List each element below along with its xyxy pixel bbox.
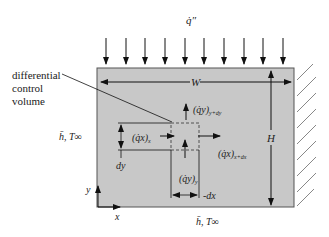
- dx-label: -dx: [203, 190, 216, 201]
- dy-label: dy: [116, 160, 126, 171]
- heat-flux-label: q̇″: [186, 14, 197, 26]
- bottom-boundary-label: h̄, T∞: [196, 216, 219, 227]
- incident-heat-flux-arrows: [106, 38, 283, 64]
- x-axis-label: x: [114, 211, 120, 222]
- callout-line-1: differential: [12, 69, 61, 81]
- left-boundary-label: h̄, T∞: [59, 131, 82, 142]
- width-label: W: [191, 76, 201, 88]
- insulated-wall-hatching: [297, 64, 316, 206]
- height-label: H: [266, 132, 276, 144]
- callout-line-3: volume: [12, 95, 45, 107]
- callout-line-2: control: [12, 82, 43, 94]
- y-axis-label: y: [85, 184, 91, 195]
- heat-transfer-diagram: q̇″ W H differential contr: [0, 0, 329, 237]
- plate: [97, 68, 294, 207]
